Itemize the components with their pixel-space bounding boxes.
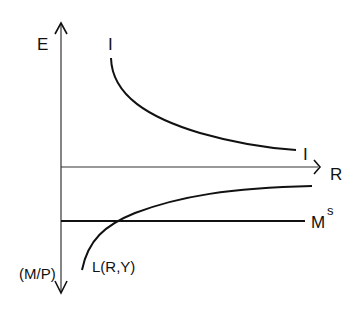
- investment-curve: [111, 58, 296, 150]
- label-money-demand: L(R,Y): [92, 258, 135, 275]
- label-i-end: I: [303, 145, 308, 164]
- label-i-start: I: [108, 35, 113, 54]
- label-e: E: [37, 35, 48, 54]
- label-real-money: (M/P): [19, 265, 56, 282]
- label-m: M: [311, 213, 325, 232]
- diagram-canvas: E I I R M s L(R,Y) (M/P): [0, 0, 360, 315]
- label-r: R: [330, 165, 342, 184]
- label-m-superscript: s: [327, 203, 334, 218]
- diagram-svg: E I I R M s L(R,Y) (M/P): [0, 0, 360, 315]
